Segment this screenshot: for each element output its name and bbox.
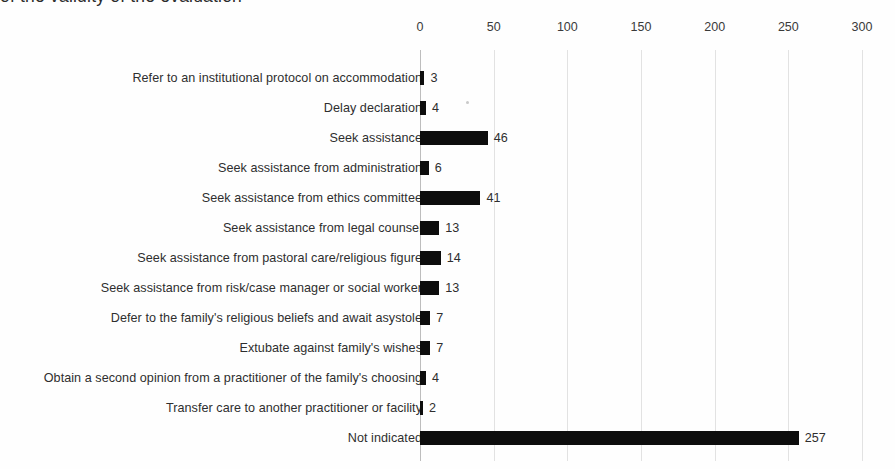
category-label: Refer to an institutional protocol on ac… [132,71,422,85]
bar-value-label: 3 [430,71,437,85]
bar [420,101,426,115]
category-label: Seek assistance [330,131,422,145]
bar [420,71,424,85]
bar-value-label: 13 [445,221,459,235]
bar-container: 14 [420,251,461,265]
bar [420,341,430,355]
bar-row: Not indicated257 [0,423,895,453]
bar-row: Refer to an institutional protocol on ac… [0,63,895,93]
bar-container: 2 [420,401,436,415]
bar-container: 46 [420,131,508,145]
bar [420,401,423,415]
bar-value-label: 6 [435,161,442,175]
bar-value-label: 46 [494,131,508,145]
bar [420,131,488,145]
bar [420,221,439,235]
x-tick-label-250: 250 [778,20,799,34]
bar [420,371,426,385]
bar-row: Transfer care to another practitioner or… [0,393,895,423]
category-label: Seek assistance from legal counsel [223,221,422,235]
x-tick-label-200: 200 [704,20,725,34]
bar-container: 6 [420,161,442,175]
bar [420,281,439,295]
bar-row: Delay declaration4 [0,93,895,123]
x-tick-label-150: 150 [631,20,652,34]
bar-row: Obtain a second opinion from a practitio… [0,363,895,393]
bar [420,161,429,175]
bar-value-label: 13 [445,281,459,295]
bar-row: Seek assistance from legal counsel13 [0,213,895,243]
bar-value-label: 257 [805,431,826,445]
bar-value-label: 41 [486,191,500,205]
bar [420,431,799,445]
bar-container: 4 [420,371,439,385]
category-label: Seek assistance from administration [218,161,422,175]
category-label: Defer to the family's religious beliefs … [111,311,422,325]
category-label: Seek assistance from pastoral care/relig… [137,251,422,265]
bar-value-label: 14 [447,251,461,265]
scan-speck [466,101,469,104]
x-tick-label-0: 0 [417,20,424,34]
category-label: Seek assistance from risk/case manager o… [101,281,422,295]
bar-container: 7 [420,311,443,325]
bar [420,251,441,265]
bar-value-label: 2 [429,401,436,415]
bar-row: Seek assistance46 [0,123,895,153]
bar-row: Extubate against family's wishes7 [0,333,895,363]
bar-container: 3 [420,71,437,85]
category-label: Not indicated [348,431,422,445]
category-label: Delay declaration [324,101,422,115]
bar-container: 257 [420,431,826,445]
bar [420,311,430,325]
bar-row: Seek assistance from risk/case manager o… [0,273,895,303]
bar-row: Seek assistance from ethics committee41 [0,183,895,213]
scanned-chart-page: of the validity of the evaluation 050100… [0,0,895,469]
bar-row: Defer to the family's religious beliefs … [0,303,895,333]
bar-row: Seek assistance from administration6 [0,153,895,183]
bar-container: 41 [420,191,500,205]
category-label: Obtain a second opinion from a practitio… [44,371,422,385]
category-label: Transfer care to another practitioner or… [166,401,422,415]
bar-container: 13 [420,221,459,235]
horizontal-bar-chart: 050100150200250300 Refer to an instituti… [0,0,895,469]
bar-row: Seek assistance from pastoral care/relig… [0,243,895,273]
bar-value-label: 4 [432,371,439,385]
x-tick-label-300: 300 [852,20,873,34]
category-label: Seek assistance from ethics committee [202,191,422,205]
bar-container: 13 [420,281,459,295]
bar-value-label: 4 [432,101,439,115]
bar [420,191,480,205]
category-label: Extubate against family's wishes [240,341,423,355]
bar-container: 7 [420,341,443,355]
x-tick-label-100: 100 [557,20,578,34]
bar-value-label: 7 [436,311,443,325]
bar-value-label: 7 [436,341,443,355]
x-tick-label-50: 50 [487,20,501,34]
bar-container: 4 [420,101,439,115]
